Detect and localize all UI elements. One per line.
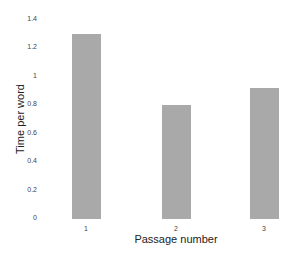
y-tick-label: 0: [7, 214, 37, 221]
y-tick-label: 1.2: [7, 43, 37, 50]
x-tick-label: 1: [76, 225, 96, 232]
y-tick-label: 0.2: [7, 186, 37, 193]
y-tick-label: 1.4: [7, 15, 37, 22]
bar-chart: 00.20.40.60.811.21.4 123 Time per word P…: [0, 0, 300, 262]
x-axis-label: Passage number: [134, 233, 217, 245]
bar-2: [162, 105, 191, 219]
y-axis-label: Time per word: [14, 84, 26, 154]
x-tick-label: 2: [166, 225, 186, 232]
x-tick-label: 3: [254, 225, 274, 232]
y-tick-label: 1: [7, 72, 37, 79]
bar-3: [250, 88, 279, 219]
bar-1: [72, 34, 101, 219]
y-tick-label: 0.4: [7, 157, 37, 164]
